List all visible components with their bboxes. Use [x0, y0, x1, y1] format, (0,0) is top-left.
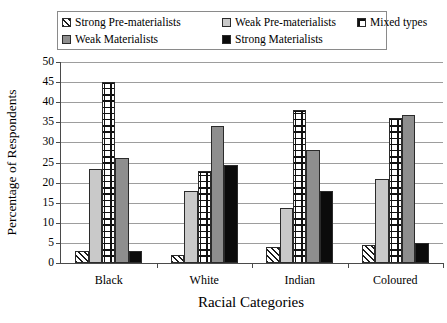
x-axis-category-label-indian: Indian	[252, 274, 348, 287]
x-axis-category-label-white: White	[157, 274, 253, 287]
light-gray-swatch-icon	[222, 18, 231, 27]
y-axis-tick-label: 45	[43, 76, 55, 88]
black-swatch-icon	[222, 35, 231, 44]
legend-item-strong-pre-materialists: Strong Pre-materialists	[62, 17, 212, 29]
y-axis-title: Percentage of Respondents	[4, 62, 20, 263]
diagonal-hatch-swatch-icon	[62, 18, 71, 27]
y-axis-tick-label: 0	[48, 257, 54, 269]
bar-indian-strong-pre-materialists	[266, 247, 279, 263]
bar-coloured-mixed-types	[389, 118, 402, 263]
chart-legend: Strong Pre-materialists Weak Pre-materia…	[57, 11, 387, 50]
legend-row-2: Weak Materialists Strong Materialists	[62, 31, 382, 48]
bar-indian-weak-pre-materialists	[280, 208, 293, 263]
bar-coloured-weak-materialists	[402, 115, 415, 263]
x-axis-category-label-black: Black	[61, 274, 157, 287]
bar-indian-mixed-types	[293, 110, 306, 263]
y-axis-tick-label: 25	[43, 157, 55, 169]
legend-item-weak-materialists: Weak Materialists	[62, 34, 212, 46]
x-axis-group-separator	[157, 263, 158, 268]
y-axis-tick-label: 40	[43, 96, 55, 108]
bar-black-strong-pre-materialists	[75, 251, 88, 263]
bar-coloured-strong-materialists	[415, 243, 428, 263]
y-axis-tick-label: 15	[43, 197, 55, 209]
y-axis-tick-label: 10	[43, 217, 55, 229]
bar-group-black	[61, 62, 157, 263]
bar-group-coloured	[348, 62, 444, 263]
bar-group-white	[157, 62, 253, 263]
y-axis-tick-label: 20	[43, 177, 55, 189]
y-axis-tick	[56, 263, 61, 264]
bar-black-weak-pre-materialists	[89, 169, 102, 263]
bar-coloured-strong-pre-materialists	[362, 245, 375, 263]
plot-area: 05101520253035404550BlackWhiteIndianColo…	[60, 62, 443, 264]
bar-black-strong-materialists	[129, 251, 142, 263]
bar-black-mixed-types	[102, 82, 115, 263]
y-axis-tick-label: 35	[43, 117, 55, 129]
legend-item-mixed-types: Mixed types	[357, 17, 427, 29]
legend-label: Mixed types	[370, 17, 427, 29]
x-axis-title: Racial Categories	[60, 294, 442, 311]
bar-group-indian	[252, 62, 348, 263]
legend-label: Strong Pre-materialists	[75, 17, 181, 29]
bar-coloured-weak-pre-materialists	[375, 179, 388, 263]
legend-row-1: Strong Pre-materialists Weak Pre-materia…	[62, 14, 382, 31]
bar-white-strong-pre-materialists	[171, 255, 184, 263]
bar-white-weak-materialists	[211, 126, 224, 263]
bar-white-weak-pre-materialists	[184, 191, 197, 263]
cross-checker-swatch-icon	[357, 18, 366, 27]
legend-item-weak-pre-materialists: Weak Pre-materialists	[222, 17, 347, 29]
bar-white-strong-materialists	[224, 165, 237, 263]
legend-label: Weak Materialists	[75, 34, 158, 46]
mid-gray-swatch-icon	[62, 35, 71, 44]
legend-label: Weak Pre-materialists	[235, 17, 336, 29]
y-axis-tick-label: 50	[43, 56, 55, 68]
bar-chart: Strong Pre-materialists Weak Pre-materia…	[0, 0, 447, 323]
legend-label: Strong Materialists	[235, 34, 323, 46]
bar-white-mixed-types	[198, 171, 211, 263]
x-axis-group-separator	[348, 263, 349, 268]
y-axis-tick-label: 5	[48, 237, 54, 249]
legend-item-strong-materialists: Strong Materialists	[222, 34, 323, 46]
bar-black-weak-materialists	[115, 158, 128, 263]
x-axis-group-separator	[252, 263, 253, 268]
bar-indian-weak-materialists	[306, 150, 319, 263]
x-axis-category-label-coloured: Coloured	[348, 274, 444, 287]
y-axis-tick-label: 30	[43, 137, 55, 149]
bar-indian-strong-materialists	[320, 191, 333, 263]
x-axis-end-tick	[443, 263, 444, 268]
